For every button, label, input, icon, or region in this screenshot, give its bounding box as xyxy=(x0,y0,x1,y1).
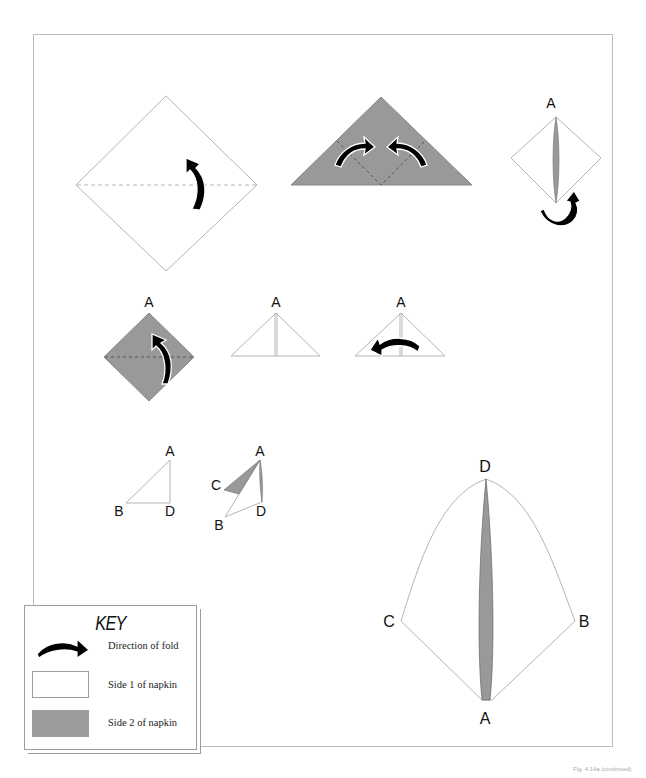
side1-swatch xyxy=(32,671,89,698)
step-9: D C B A xyxy=(383,458,589,727)
label-c: C xyxy=(383,613,395,630)
label-a: A xyxy=(396,294,406,310)
step-1 xyxy=(76,96,257,271)
label-d: D xyxy=(479,458,491,475)
key-label-side2: Side 2 of napkin xyxy=(108,717,177,728)
label-d: D xyxy=(165,503,175,519)
step-3: A xyxy=(511,95,601,226)
step-7: A B D xyxy=(114,443,175,519)
label-a: A xyxy=(144,294,154,310)
label-a: A xyxy=(271,294,281,310)
fold-arrow-icon xyxy=(35,636,91,662)
label-d: D xyxy=(256,503,266,519)
key-title: KEY xyxy=(40,612,180,635)
step-2 xyxy=(291,97,472,185)
figure-caption: Fig. 4.14a (continued) xyxy=(573,766,631,772)
side2-swatch xyxy=(32,710,89,737)
step-8: A C B D xyxy=(211,443,266,533)
label-b: B xyxy=(214,517,223,533)
label-a: A xyxy=(255,443,265,459)
label-c: C xyxy=(211,477,221,493)
label-b: B xyxy=(579,613,590,630)
key-legend: KEY Direction of fold Side 1 of napkin S… xyxy=(24,605,197,750)
key-label-direction: Direction of fold xyxy=(108,640,179,651)
key-label-side1: Side 1 of napkin xyxy=(108,679,177,690)
label-a: A xyxy=(165,443,175,459)
step-5: A xyxy=(231,294,320,356)
label-b: B xyxy=(114,503,123,519)
label-a: A xyxy=(480,710,491,727)
step-4: A xyxy=(104,294,194,401)
step-6: A xyxy=(355,294,445,356)
label-a: A xyxy=(546,95,556,111)
